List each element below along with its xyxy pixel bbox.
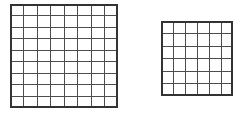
right-grid-svg	[161, 21, 233, 96]
left-grid-svg	[10, 4, 118, 108]
figure-canvas	[0, 0, 243, 120]
grid-left	[10, 4, 118, 108]
grid-right	[161, 21, 233, 96]
